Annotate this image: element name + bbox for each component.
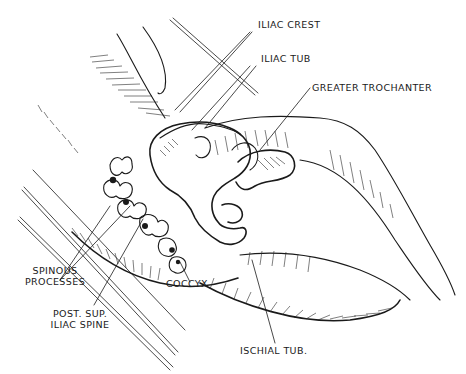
label-greater-trochanter: GREATER TROCHANTER: [312, 82, 432, 93]
label-coccyx: COCCYX: [166, 278, 208, 289]
leader-lines: [60, 32, 310, 343]
label-spinous-line1: SPINOUS: [24, 265, 86, 276]
label-spinous-processes: SPINOUS PROCESSES: [24, 265, 86, 287]
label-post-sup-line2: ILIAC SPINE: [46, 319, 114, 330]
label-spinous-line2: PROCESSES: [24, 276, 86, 287]
label-iliac-crest: ILIAC CREST: [258, 19, 320, 30]
label-ischial-tub: ISCHIAL TUB.: [240, 345, 307, 356]
label-post-sup-line1: POST. SUP.: [46, 308, 114, 319]
upper-body-outline: [38, 27, 170, 153]
pelvis-bone: [150, 122, 295, 244]
body-contours: [72, 116, 455, 320]
label-post-sup-iliac-spine: POST. SUP. ILIAC SPINE: [46, 308, 114, 330]
label-iliac-tub: ILIAC TUB: [261, 53, 311, 64]
anatomy-figure: ILIAC CREST ILIAC TUB GREATER TROCHANTER…: [0, 0, 466, 374]
